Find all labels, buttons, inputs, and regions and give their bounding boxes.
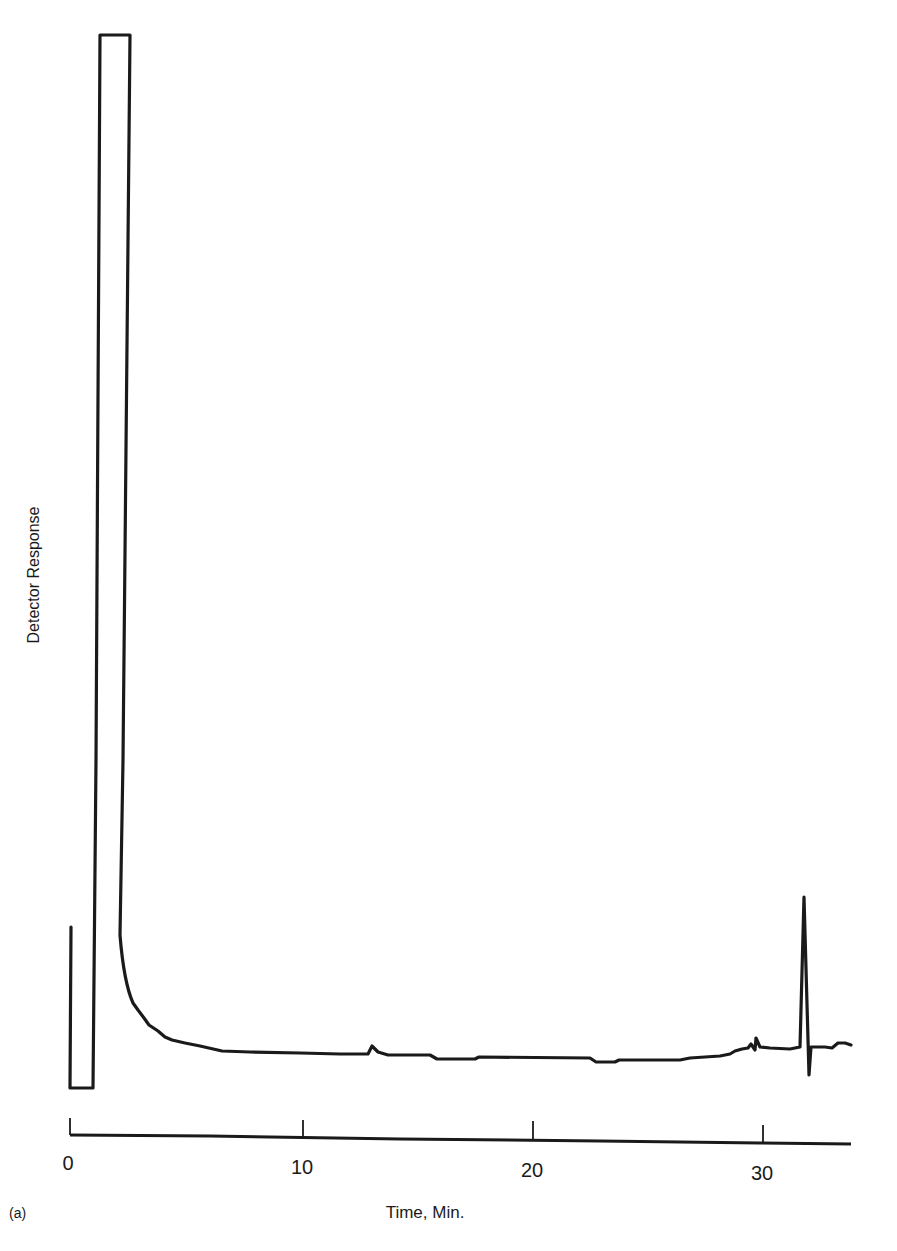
x-axis-line (70, 1135, 851, 1144)
x-tick-label-10: 10 (291, 1156, 313, 1179)
x-tick-label-30: 30 (751, 1162, 773, 1185)
chromatogram-plot (0, 0, 897, 1251)
x-axis-label: Time, Min. (386, 1203, 465, 1223)
x-tick-label-20: 20 (521, 1159, 543, 1182)
panel-label: (a) (9, 1205, 26, 1221)
y-axis-label: Detector Response (25, 507, 43, 644)
chromatogram-trace (70, 35, 851, 1088)
x-tick-label-0: 0 (62, 1152, 73, 1175)
